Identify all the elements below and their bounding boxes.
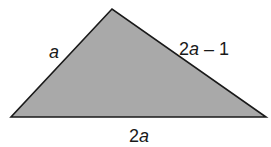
- side-label-base: 2a: [129, 126, 149, 146]
- triangle-diagram: a 2a – 1 2a: [0, 0, 271, 147]
- side-label-left: a: [49, 42, 59, 62]
- side-label-right: 2a – 1: [179, 39, 229, 59]
- triangle-shape: [11, 9, 266, 117]
